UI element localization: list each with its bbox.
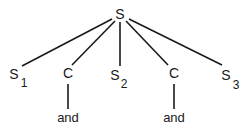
root-node-s: S [115,6,124,22]
node-s2: S [110,67,119,83]
node-c2: C [169,65,179,81]
node-c1: C [63,65,73,81]
edge-root-s3 [129,19,222,65]
leaf-and-2: and [163,110,185,125]
edge-root-c1 [72,21,115,65]
parse-tree-diagram: S S 1 C S 2 C S 3 and and [0,0,245,129]
node-s1: S [9,66,18,82]
node-s2-subscript: 2 [121,77,128,91]
node-s3-subscript: 3 [233,78,240,92]
edge-root-s1 [22,19,112,66]
leaf-and-1: and [57,110,79,125]
node-s3: S [221,67,230,83]
node-s1-subscript: 1 [21,76,28,90]
